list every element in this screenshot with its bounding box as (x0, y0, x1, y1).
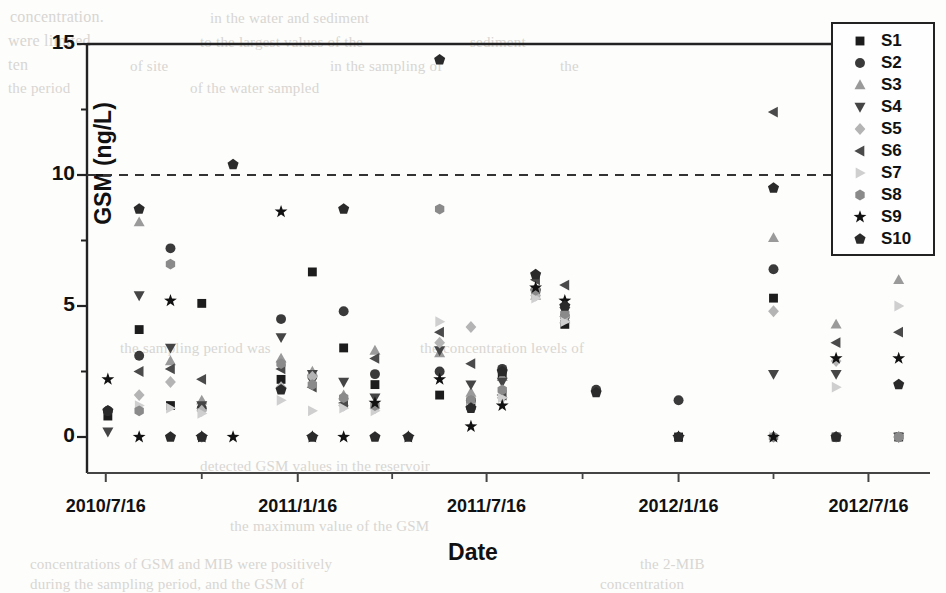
data-point (768, 182, 779, 193)
data-point (892, 352, 905, 364)
legend-item-label: S10 (881, 229, 911, 249)
data-point (465, 380, 476, 390)
data-point (134, 389, 145, 401)
series-S9 (101, 205, 905, 443)
data-point (277, 395, 287, 406)
data-point (370, 369, 380, 379)
legend-item-label: S3 (881, 75, 902, 95)
data-point (435, 204, 444, 215)
data-point (196, 431, 207, 442)
triangle-right-marker-icon (847, 163, 873, 183)
series-S1 (103, 268, 903, 442)
data-point (338, 203, 349, 214)
diamond-marker-icon (847, 119, 873, 139)
data-point (559, 280, 569, 291)
data-point (276, 314, 286, 324)
data-point (369, 431, 380, 442)
hexagon-marker-icon (847, 185, 873, 205)
legend-item-label: S4 (881, 97, 902, 117)
data-point (134, 291, 145, 301)
data-point (894, 301, 904, 312)
legend-item-s1[interactable]: S1 (833, 30, 933, 52)
data-point (308, 268, 317, 277)
data-point (307, 431, 318, 442)
data-point (434, 54, 445, 65)
data-point (831, 370, 842, 380)
data-point (769, 264, 779, 274)
data-point (371, 380, 380, 389)
data-point (276, 333, 287, 343)
legend-item-label: S9 (881, 207, 902, 227)
data-point (831, 319, 842, 329)
triangle-up-marker-icon (847, 75, 873, 95)
series-S5 (134, 290, 904, 443)
legend-item-s3[interactable]: S3 (833, 74, 933, 96)
data-point (164, 294, 177, 306)
data-point (530, 269, 541, 280)
circle-marker-icon (847, 53, 873, 73)
data-point (165, 431, 176, 442)
data-point (768, 305, 779, 317)
data-point (339, 343, 348, 352)
data-point (496, 399, 509, 411)
series-S6 (133, 107, 903, 409)
data-point (768, 370, 779, 380)
legend-item-s5[interactable]: S5 (833, 118, 933, 140)
data-point (134, 203, 145, 214)
triangle-left-marker-icon (847, 141, 873, 161)
legend-item-s2[interactable]: S2 (833, 52, 933, 74)
data-point (832, 382, 842, 393)
legend-item-s9[interactable]: S9 (833, 206, 933, 228)
data-point (465, 358, 475, 369)
legend-item-s8[interactable]: S8 (833, 184, 933, 206)
triangle-down-marker-icon (847, 97, 873, 117)
data-point (435, 316, 445, 327)
chart-legend: S1S2S3S4S5S6S7S8S9S10 (831, 22, 935, 256)
legend-item-s10[interactable]: S10 (833, 228, 933, 250)
data-point (466, 321, 477, 333)
data-point (465, 420, 478, 432)
data-point (165, 376, 176, 388)
data-point (134, 351, 144, 361)
data-point (228, 159, 239, 170)
data-points-layer (101, 54, 905, 443)
data-point (403, 431, 414, 442)
data-point (339, 306, 349, 316)
data-point (674, 395, 684, 405)
data-point (102, 405, 113, 416)
data-point (768, 107, 778, 118)
data-point (434, 327, 444, 338)
data-point (275, 205, 288, 217)
data-point (559, 300, 570, 311)
series-S2 (103, 243, 904, 442)
data-point (338, 378, 349, 388)
legend-item-s4[interactable]: S4 (833, 96, 933, 118)
data-point (134, 216, 145, 226)
data-point (433, 373, 446, 385)
data-point (135, 325, 144, 334)
series-S8 (134, 204, 903, 443)
data-point (165, 243, 175, 253)
data-point (197, 299, 206, 308)
legend-item-s7[interactable]: S7 (833, 162, 933, 184)
legend-item-label: S5 (881, 119, 902, 139)
legend-item-s6[interactable]: S6 (833, 140, 933, 162)
series-S7 (135, 293, 905, 443)
data-point (308, 405, 318, 416)
square-marker-icon (847, 31, 873, 51)
data-point (893, 274, 904, 284)
data-point (196, 374, 206, 385)
legend-item-label: S7 (881, 163, 902, 183)
data-point (337, 430, 350, 442)
data-point (435, 391, 444, 400)
legend-item-label: S6 (881, 141, 902, 161)
data-point (133, 430, 146, 442)
data-point (101, 373, 114, 385)
data-point (769, 294, 778, 303)
data-point (893, 379, 904, 390)
star-marker-icon (847, 207, 873, 227)
legend-item-label: S2 (881, 53, 902, 73)
data-point (830, 337, 840, 348)
